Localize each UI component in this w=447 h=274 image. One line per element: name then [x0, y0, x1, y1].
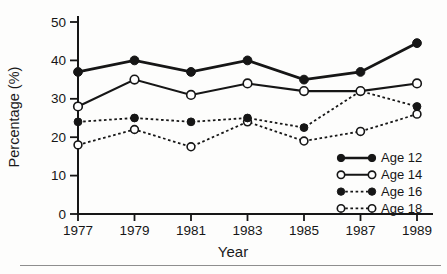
legend-label: Age 16 [381, 184, 422, 199]
y-tick-label: 30 [51, 91, 66, 106]
filled-circle-marker-icon [187, 68, 196, 77]
series-age-12 [74, 39, 422, 84]
open-circle-marker-icon [337, 171, 344, 178]
y-tick-label: 10 [51, 168, 66, 183]
open-circle-marker-icon [131, 126, 139, 134]
filled-circle-marker-icon [187, 118, 195, 126]
filled-circle-marker-icon [74, 68, 83, 77]
open-circle-marker-icon [74, 102, 83, 111]
open-circle-marker-icon [356, 87, 365, 96]
line-chart-figure: 010203040501977197919811983198519871989A… [0, 0, 447, 274]
x-tick-label: 1977 [63, 223, 93, 238]
filled-circle-marker-icon [130, 56, 139, 65]
open-circle-marker-icon [357, 128, 365, 136]
x-axis-title: Year [218, 243, 248, 260]
chart-canvas: 010203040501977197919811983198519871989A… [0, 0, 447, 274]
filled-circle-marker-icon [337, 188, 344, 195]
filled-circle-marker-icon [300, 75, 309, 84]
open-circle-marker-icon [413, 110, 421, 118]
open-circle-marker-icon [243, 79, 252, 88]
legend-label: Age 14 [381, 167, 422, 182]
legend: Age 12Age 14Age 16Age 18 [337, 150, 422, 215]
filled-circle-marker-icon [368, 188, 375, 195]
open-circle-marker-icon [74, 141, 82, 149]
x-tick-label: 1981 [176, 223, 206, 238]
open-circle-marker-icon [187, 143, 195, 151]
filled-circle-marker-icon [131, 114, 139, 122]
x-tick-label: 1989 [402, 223, 432, 238]
open-circle-marker-icon [187, 91, 196, 100]
y-axis-title: Percentage (%) [6, 67, 22, 168]
filled-circle-marker-icon [300, 124, 308, 132]
y-tick-label: 0 [58, 207, 66, 222]
filled-circle-marker-icon [243, 56, 252, 65]
axes [77, 16, 433, 215]
open-circle-marker-icon [368, 171, 375, 178]
x-tick-label: 1987 [345, 223, 375, 238]
open-circle-marker-icon [130, 75, 139, 84]
y-tick-label: 20 [51, 130, 66, 145]
y-axis-ticks: 01020304050 [51, 15, 78, 222]
figure-bottom-rule [20, 265, 441, 266]
legend-label: Age 12 [381, 150, 422, 165]
y-tick-label: 40 [51, 53, 66, 68]
filled-circle-marker-icon [337, 154, 344, 161]
x-tick-label: 1983 [232, 223, 262, 238]
open-circle-marker-icon [368, 205, 375, 212]
filled-circle-marker-icon [413, 39, 422, 48]
x-tick-label: 1985 [289, 223, 319, 238]
open-circle-marker-icon [413, 79, 422, 88]
legend-label: Age 18 [381, 201, 422, 216]
filled-circle-marker-icon [368, 154, 375, 161]
open-circle-marker-icon [300, 137, 308, 145]
x-axis-ticks: 1977197919811983198519871989 [63, 214, 432, 238]
filled-circle-marker-icon [356, 68, 365, 77]
open-circle-marker-icon [300, 87, 309, 96]
filled-circle-marker-icon [413, 103, 421, 111]
open-circle-marker-icon [337, 205, 344, 212]
y-tick-label: 50 [51, 15, 66, 30]
filled-circle-marker-icon [244, 114, 252, 122]
filled-circle-marker-icon [74, 118, 82, 126]
x-tick-label: 1979 [119, 223, 149, 238]
